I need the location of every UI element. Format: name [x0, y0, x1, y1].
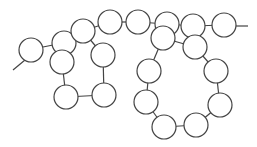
- circle-node: [98, 10, 122, 34]
- circle-node: [212, 13, 236, 37]
- circle-node: [181, 14, 205, 38]
- connector-line: [43, 45, 53, 47]
- circle-node: [71, 19, 95, 43]
- diagram-canvas: [0, 0, 257, 147]
- circle-node: [137, 59, 161, 83]
- connector-line: [13, 60, 25, 70]
- circle-node: [134, 90, 158, 114]
- circle-node: [152, 115, 176, 139]
- node-layer: [19, 10, 236, 139]
- circle-node: [92, 83, 116, 107]
- circle-node: [151, 26, 175, 50]
- circle-node: [50, 50, 74, 74]
- circle-node: [183, 35, 207, 59]
- circle-node: [208, 93, 232, 117]
- circle-node: [204, 59, 228, 83]
- circle-node: [126, 10, 150, 34]
- circle-node: [54, 85, 78, 109]
- bead-chain-diagram: [0, 0, 257, 147]
- circle-node: [19, 38, 43, 62]
- circle-node: [184, 113, 208, 137]
- circle-node: [91, 43, 115, 67]
